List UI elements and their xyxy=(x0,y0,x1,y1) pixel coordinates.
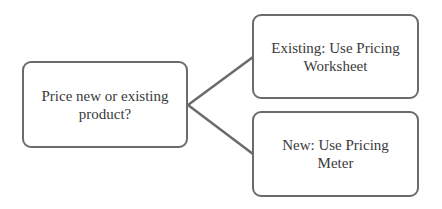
outcome-node-new: New: Use Pricing Meter xyxy=(252,111,419,197)
edge-root-new xyxy=(188,105,253,154)
node-label: New: Use Pricing Meter xyxy=(264,136,407,172)
node-label: Price new or existing product? xyxy=(34,87,176,123)
decision-node-root: Price new or existing product? xyxy=(22,61,188,148)
outcome-node-existing: Existing: Use Pricing Worksheet xyxy=(252,14,419,99)
edge-root-existing xyxy=(188,57,253,105)
node-label: Existing: Use Pricing Worksheet xyxy=(264,39,407,75)
